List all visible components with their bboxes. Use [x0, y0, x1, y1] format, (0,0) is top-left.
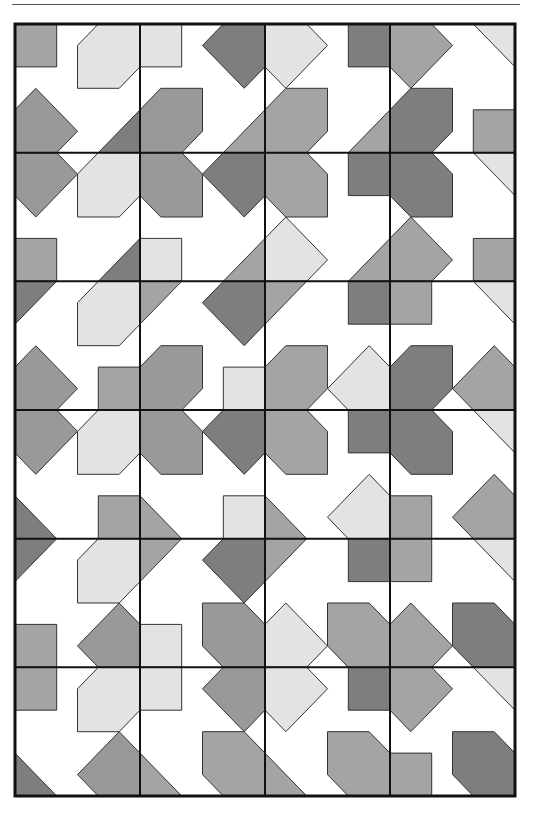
tile-shape-octBR: [203, 732, 266, 796]
tile-cell: [390, 410, 515, 539]
tile-cell: [265, 281, 390, 410]
tile-shape-triTR: [473, 539, 515, 582]
tile-shape-octBR: [203, 603, 266, 667]
tile-cell: [265, 667, 390, 796]
tile-shape-triBR: [223, 238, 265, 281]
tile-cell: [15, 281, 140, 410]
tile-shape-triBR: [98, 238, 140, 281]
tile-cell: [15, 667, 140, 796]
tile-shape-octTL: [390, 410, 453, 474]
tile-cell: [390, 667, 515, 796]
tile-shape-octBR: [453, 732, 516, 796]
tile-shape-dmTL: [15, 410, 78, 474]
tile-shape-sqBR: [223, 496, 265, 539]
tile-shape-dmTR: [203, 539, 266, 603]
tile-shape-sqBR: [473, 110, 515, 153]
tile-cell: [140, 667, 265, 796]
tile-shape-octBL: [265, 88, 328, 152]
tile-shape-octBL: [265, 346, 328, 410]
tile-shape-dmTL: [15, 153, 78, 217]
tile-shape-triBR: [348, 110, 390, 153]
tile-shape-octBL: [140, 346, 203, 410]
tile-shape-dmTL: [390, 667, 453, 731]
tile-shape-sqTL: [140, 667, 182, 710]
tile-shape-dmBR: [328, 346, 391, 410]
tile-cell: [265, 153, 390, 282]
tile-cell: [390, 281, 515, 410]
tile-shape-triTL: [265, 539, 307, 582]
tile-cell: [140, 539, 265, 668]
tile-shape-triBL: [140, 496, 182, 539]
tile-cell: [140, 153, 265, 282]
tile-shape-triTR: [473, 153, 515, 196]
tile-shape-dmBR: [453, 346, 516, 410]
tile-shape-sqBR: [473, 238, 515, 281]
tile-shape-sqTR: [348, 281, 390, 324]
tile-shape-triTL: [140, 539, 182, 582]
tile-cell: [15, 410, 140, 539]
tile-shape-triTL: [140, 281, 182, 324]
tile-shape-triTR: [473, 24, 515, 67]
tile-shape-sqTL: [15, 667, 57, 710]
tile-shape-octBR: [328, 603, 391, 667]
tile-shape-triBR: [223, 110, 265, 153]
tile-shape-sqTL: [15, 24, 57, 67]
tile-shape-sqTR: [348, 24, 390, 67]
tile-shape-triTL: [15, 539, 57, 582]
tile-shape-sqTR: [348, 667, 390, 710]
tile-shape-dmBL: [15, 88, 78, 152]
tile-shape-octTR: [78, 667, 141, 731]
tile-shape-octTR: [78, 24, 141, 88]
tile-shape-dmBL: [265, 603, 328, 667]
tile-shape-octTR: [78, 410, 141, 474]
tile-shape-octTR: [78, 539, 141, 603]
tile-shape-triBL: [265, 753, 307, 796]
tile-shape-octBR: [328, 732, 391, 796]
tile-cell: [265, 24, 390, 153]
tile-shape-triBL: [15, 753, 57, 796]
tile-shape-octTL: [140, 153, 203, 217]
tile-shape-triTL: [15, 281, 57, 324]
tile-shape-sqBL: [140, 624, 182, 667]
tile-shape-dmBR: [78, 603, 141, 667]
tile-cell: [265, 410, 390, 539]
tile-cell: [140, 410, 265, 539]
tile-shape-dmBL: [390, 603, 453, 667]
tile-shape-octTR: [78, 281, 141, 345]
tile-shape-dmTR: [203, 153, 266, 217]
tile-shape-dmBL: [265, 217, 328, 281]
tile-cell: [390, 539, 515, 668]
tile-cell: [390, 153, 515, 282]
tile-shape-octBL: [390, 88, 453, 152]
tile-shape-sqBL: [140, 238, 182, 281]
tile-cell: [15, 24, 140, 153]
tile-shape-octTL: [390, 153, 453, 217]
tile-shape-octTL: [265, 410, 328, 474]
tile-shape-octBL: [140, 88, 203, 152]
tile-cell: [390, 24, 515, 153]
tile-shape-triBL: [265, 496, 307, 539]
tile-shape-triBL: [140, 753, 182, 796]
tile-shape-triTR: [473, 667, 515, 710]
tile-shape-octBL: [390, 346, 453, 410]
tile-shape-sqTR: [348, 153, 390, 196]
tile-shape-dmTL: [265, 24, 328, 88]
tile-cell: [15, 153, 140, 282]
tile-shape-sqBR: [223, 367, 265, 410]
tile-shape-dmTL: [265, 667, 328, 731]
tile-shape-triTL: [265, 281, 307, 324]
tile-pattern: [0, 0, 535, 814]
tile-shape-sqTR: [348, 539, 390, 582]
tile-shape-octTL: [140, 410, 203, 474]
tile-shape-dmTR: [203, 667, 266, 731]
tile-shape-sqBL: [15, 624, 57, 667]
tile-shape-dmTR: [203, 281, 266, 345]
tile-shape-sqTL: [390, 281, 432, 324]
tile-shape-triBL: [15, 496, 57, 539]
tile-shape-octBR: [453, 603, 516, 667]
tile-shape-dmTR: [203, 410, 266, 474]
tile-shape-sqBR: [98, 496, 140, 539]
tile-cell: [140, 24, 265, 153]
tile-shape-dmBR: [453, 474, 516, 538]
tile-shape-dmTR: [203, 24, 266, 88]
